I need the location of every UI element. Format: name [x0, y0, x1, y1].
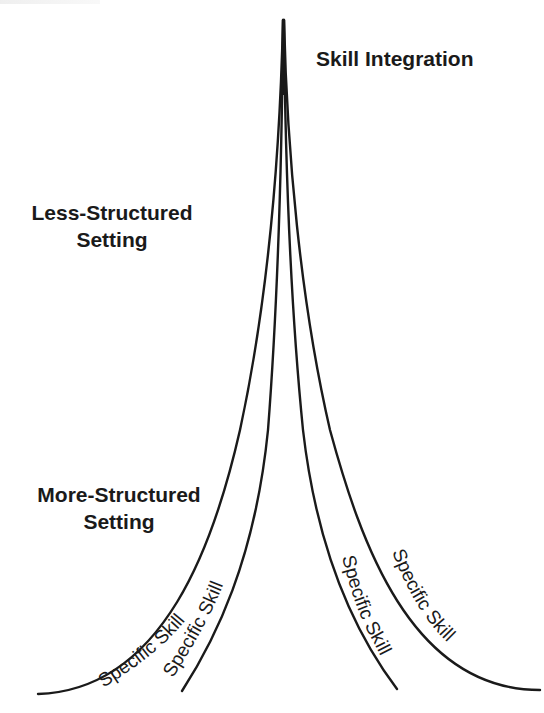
- branch-curve-left-inner: [182, 20, 283, 691]
- more-structured-setting-label: More-Structured Setting: [14, 481, 224, 535]
- more-structured-line2: Setting: [14, 508, 224, 535]
- less-structured-setting-label: Less-Structured Setting: [14, 199, 210, 253]
- skill-integration-diagram: Specific Skill Specific Skill Specific S…: [0, 0, 544, 713]
- diagram-canvas: Specific Skill Specific Skill Specific S…: [0, 0, 544, 713]
- more-structured-line1: More-Structured: [14, 481, 224, 508]
- less-structured-line1: Less-Structured: [14, 199, 210, 226]
- apex-label: Skill Integration: [316, 45, 474, 72]
- branch-curve-left-outer: [38, 20, 283, 694]
- branch-label-right-outer: Specific Skill: [388, 546, 459, 646]
- branch-curves: [38, 20, 540, 694]
- branch-curve-right-inner: [284, 20, 397, 689]
- less-structured-line2: Setting: [14, 226, 210, 253]
- apex-label-text: Skill Integration: [316, 45, 474, 72]
